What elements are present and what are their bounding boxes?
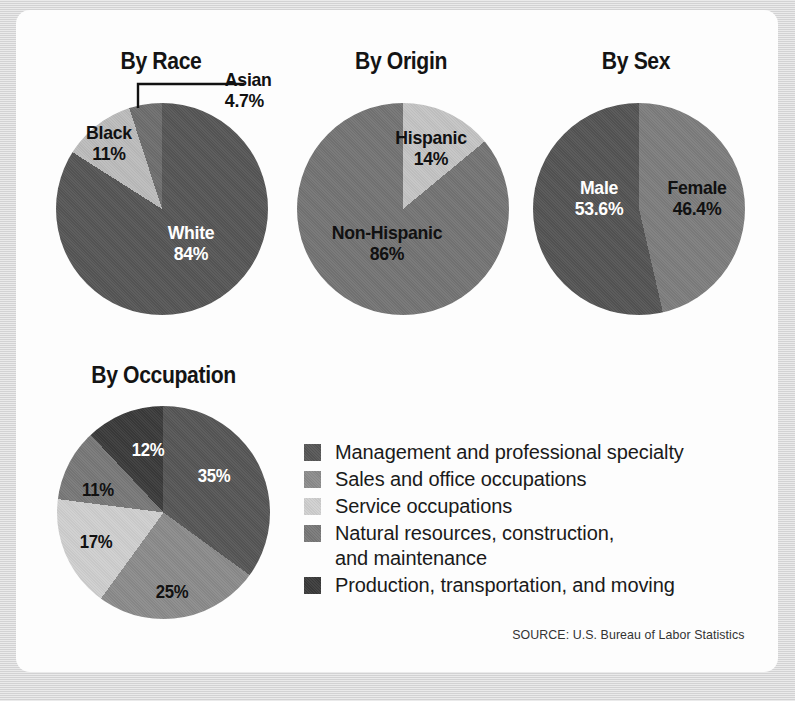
slice-label-asian: Asian 4.7% bbox=[225, 70, 327, 111]
legend-item-natural-resources: Natural resources, construction, and mai… bbox=[304, 521, 724, 571]
legend-swatch-sales-office bbox=[304, 471, 321, 488]
slice-label-occupation-12: 12% bbox=[120, 441, 176, 460]
slice-label-occupation-35: 35% bbox=[186, 467, 242, 486]
legend-item-sales-office: Sales and office occupations bbox=[304, 467, 724, 492]
legend-label-production: Production, transportation, and moving bbox=[335, 573, 675, 598]
slice-label-occupation-11: 11% bbox=[70, 481, 126, 500]
legend-label-sales-office: Sales and office occupations bbox=[335, 467, 586, 492]
legend-swatch-service bbox=[304, 498, 321, 515]
panel-title-sex: By Sex bbox=[544, 48, 728, 75]
slice-label-male: Male 53.6% bbox=[548, 178, 650, 219]
slice-label-black: Black 11% bbox=[67, 123, 151, 164]
legend-label-management: Management and professional specialty bbox=[335, 440, 684, 465]
slice-label-non-hispanic: Non-Hispanic 86% bbox=[308, 223, 466, 264]
legend-item-service: Service occupations bbox=[304, 494, 724, 519]
legend-label-service: Service occupations bbox=[335, 494, 512, 519]
slice-label-white: White 84% bbox=[149, 223, 233, 264]
occupation-legend: Management and professional specialty Sa… bbox=[304, 440, 724, 600]
source-note: SOURCE: U.S. Bureau of Labor Statistics bbox=[512, 627, 744, 642]
panel-title-origin: By Origin bbox=[309, 48, 493, 75]
legend-item-management: Management and professional specialty bbox=[304, 440, 724, 465]
infographic-card: By Race Asian 4.7% Black 11% White 84% B… bbox=[16, 10, 778, 672]
legend-label-natural-resources: Natural resources, construction, and mai… bbox=[335, 521, 614, 571]
legend-swatch-natural-resources bbox=[304, 525, 321, 542]
slice-label-occupation-17: 17% bbox=[68, 533, 124, 552]
legend-swatch-management bbox=[304, 444, 321, 461]
slice-label-hispanic: Hispanic 14% bbox=[375, 128, 487, 169]
slice-label-female: Female 46.4% bbox=[646, 178, 748, 219]
legend-item-production: Production, transportation, and moving bbox=[304, 573, 724, 598]
panel-title-occupation: By Occupation bbox=[65, 362, 263, 389]
legend-swatch-production bbox=[304, 577, 321, 594]
infographic-root: By Race Asian 4.7% Black 11% White 84% B… bbox=[0, 0, 795, 701]
slice-label-occupation-25: 25% bbox=[144, 583, 200, 602]
